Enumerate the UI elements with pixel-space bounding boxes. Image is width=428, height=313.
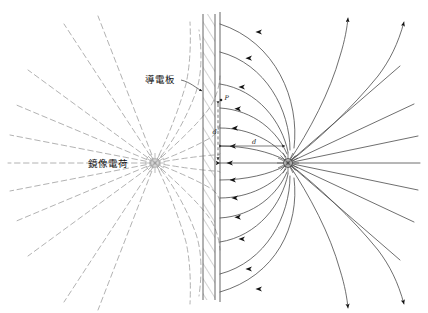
physics-diagram: P d d 導電板 鏡像電荷 [0, 0, 428, 313]
horizontal-dimension-label: d [252, 138, 256, 146]
vertical-dimension-label: d [213, 128, 217, 136]
point-p-label: P [224, 94, 230, 102]
conducting-plate-label: 導電板 [145, 74, 175, 85]
conducting-plate [203, 14, 215, 300]
image-charge-label: 鏡像電荷 [88, 158, 128, 169]
point-p-marker [220, 99, 223, 102]
image-charge-symbol [145, 153, 165, 173]
plate-hatching [203, 14, 215, 300]
image-charge-rays [145, 153, 165, 173]
